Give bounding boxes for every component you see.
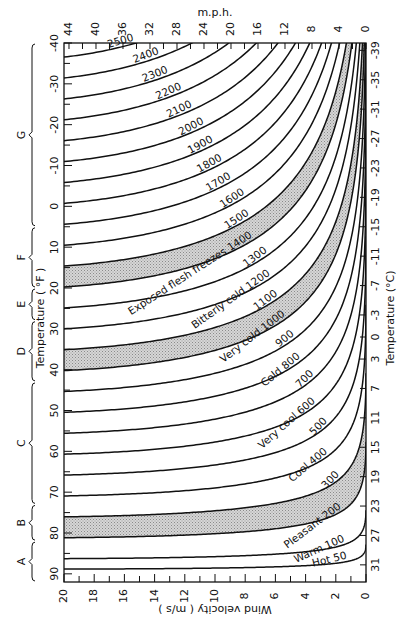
tick-label: 90 [48,567,61,581]
tick-label: 0 [48,203,61,210]
tick-label: 23 [369,499,382,513]
tick-label: 20 [224,22,237,36]
tick-label: 40 [89,22,102,36]
tick-label: -30 [48,75,61,93]
tick-label: 70 [48,485,61,499]
tick-label: 36 [116,22,129,36]
curve-label: 1700 [203,169,232,193]
tick-label: -27 [369,130,382,148]
wind-chill-curve [64,0,366,203]
tick-label: -23 [369,159,382,177]
zone-letter: A [15,557,28,565]
tick-label: 80 [48,526,61,540]
right-axis-title: Temperature (°C) [384,271,397,367]
zone-letter: D [15,347,28,355]
tick-label: 3 [369,356,382,363]
top-axis-title: m.p.h. [197,6,232,19]
chart-canvas: 2500240023002200210020001900180017001600… [0,0,406,617]
tick-label: 11 [369,411,382,425]
tick-label: -39 [369,41,382,59]
comfort-zone-brackets: GFEDCBA [15,44,35,581]
bottom-axis-title: Wind velocity ( m/s ) [158,603,271,616]
zone-letter: B [15,519,28,527]
tick-label: 60 [48,444,61,458]
zone-bracket [29,383,35,504]
zone-letter: G [15,131,28,140]
left-axis-title: Temperature ( °F ) [34,268,47,370]
tick-label: -20 [48,116,61,134]
curve-label: 700 [293,367,316,390]
curve-label: 1800 [194,151,223,175]
tick-label: 27 [369,528,382,542]
tick-label: 32 [143,22,156,36]
zone-letter: C [15,439,28,447]
curve-labels: 2500240023002200210020001900180017001600… [106,31,348,569]
tick-label: 0 [359,593,372,600]
tick-label: 30 [48,322,61,336]
tick-label: 6 [268,593,281,600]
curve-label: 1900 [185,133,214,156]
tick-label: 8 [305,26,318,33]
tick-label: -40 [48,34,61,52]
tick-label: 4 [299,593,312,600]
tick-label: 40 [48,363,61,377]
tick-label: 31 [369,558,382,572]
tick-label: 10 [208,589,221,603]
tick-label: 20 [57,589,70,603]
tick-label: 10 [48,240,61,254]
curve-label: 900 [273,327,296,349]
tick-label: 0 [359,26,372,33]
zone-letter: E [15,301,28,308]
zone-bracket [29,44,35,226]
tick-label: 28 [170,22,183,36]
curve-label: 1600 [217,185,246,210]
curve-label: 1300 [240,244,269,270]
tick-label: 18 [87,589,100,603]
tick-label: 16 [117,589,130,603]
tick-label: -3 [369,309,382,320]
tick-label: -19 [369,188,382,206]
zone-letter: F [15,254,28,260]
tick-label: 15 [369,440,382,454]
tick-label: -35 [369,71,382,89]
tick-label: 8 [238,593,251,600]
tick-label: 20 [48,281,61,295]
tick-label: 14 [148,589,161,603]
tick-label: 4 [332,26,345,33]
zone-bracket [29,505,35,540]
tick-label: -11 [369,247,382,265]
tick-label: 12 [278,22,291,36]
tick-label: 24 [197,22,210,36]
zone-bracket [29,542,35,581]
tick-label: -31 [369,100,382,118]
tick-label: 44 [62,22,75,36]
tick-label: 0 [369,334,382,341]
curve-label: 2000 [176,114,205,137]
tick-label: -15 [369,218,382,236]
wind-chill-curve [64,0,366,224]
tick-label: 16 [251,22,264,36]
curve-label: Very cool 600 [255,394,317,450]
curve-label: 500 [307,414,329,437]
tick-label: 2 [329,593,342,600]
tick-label: 12 [178,589,191,603]
tick-label: -7 [369,280,382,291]
tick-label: 19 [369,470,382,484]
tick-label: -10 [48,157,61,175]
wind-chill-chart: 2500240023002200210020001900180017001600… [0,0,406,617]
tick-label: 7 [369,385,382,392]
tick-label: 50 [48,404,61,418]
